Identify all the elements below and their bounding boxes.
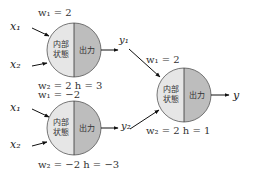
output-y2: y₂ bbox=[120, 120, 131, 131]
neuron-2: 内部 状態 出力 w₁ = −2 w₂ = −2 h = −3 x₁ x₂ y₂ bbox=[10, 89, 131, 170]
inner-state-label: 状態 bbox=[163, 94, 179, 104]
arrow-icon bbox=[32, 63, 47, 66]
inner-state-label: 状態 bbox=[53, 49, 69, 59]
weight-w1: w₁ = 2 bbox=[146, 54, 180, 65]
inner-state-label: 内部 bbox=[53, 117, 69, 127]
inner-state-label: 内部 bbox=[163, 84, 179, 94]
input-x1: x₁ bbox=[10, 20, 21, 33]
inner-state-label: 状態 bbox=[53, 127, 69, 137]
output-y1: y₁ bbox=[118, 34, 129, 45]
weight-w2-threshold: w₂ = 2 h = 1 bbox=[146, 125, 210, 136]
input-x1: x₁ bbox=[10, 101, 21, 114]
output-label: 出力 bbox=[189, 90, 205, 100]
weight-w2-threshold: w₂ = −2 h = −3 bbox=[38, 159, 119, 170]
arrow-icon bbox=[32, 142, 47, 146]
neuron-1: 内部 状態 出力 w₁ = 2 w₂ = 2 h = 3 x₁ x₂ y₁ bbox=[10, 7, 129, 91]
arrow-icon bbox=[32, 28, 49, 36]
weight-w1: w₁ = −2 bbox=[38, 89, 80, 100]
input-x2: x₂ bbox=[10, 138, 21, 151]
arrow-icon bbox=[32, 109, 49, 117]
output-label: 出力 bbox=[79, 45, 95, 55]
neuron-3: 内部 状態 出力 w₁ = 2 w₂ = 2 h = 1 y bbox=[129, 49, 240, 136]
input-x2: x₂ bbox=[10, 58, 21, 71]
inner-state-label: 内部 bbox=[53, 39, 69, 49]
weight-w1: w₁ = 2 bbox=[38, 7, 72, 18]
output-y: y bbox=[232, 89, 240, 102]
neural-network-diagram: 内部 状態 出力 w₁ = 2 w₂ = 2 h = 3 x₁ x₂ y₁ 内部… bbox=[0, 0, 254, 184]
output-label: 出力 bbox=[79, 123, 95, 133]
